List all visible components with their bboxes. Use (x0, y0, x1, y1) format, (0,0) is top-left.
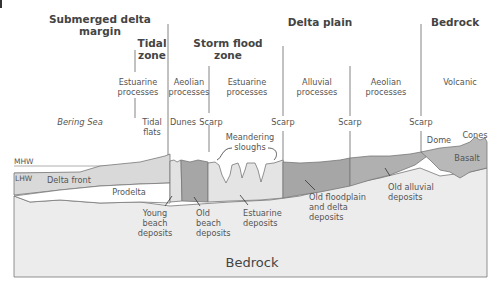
label-line: deposits (309, 212, 373, 222)
heading-tidal-zone: Tidal zone (132, 37, 172, 61)
label-line: processes (217, 87, 277, 97)
heading-storm-flood-zone: Storm flood zone (188, 37, 268, 61)
process-estuarine-2: Estuarine processes (217, 77, 277, 97)
label-line: Aeolian (355, 77, 417, 87)
label-line: deposits (134, 228, 176, 238)
label-scarp-2: Scarp (270, 117, 296, 127)
estuarine-deposits (208, 160, 283, 202)
label-scarp-1: Scarp (198, 117, 224, 127)
label-delta-front: Delta front (44, 175, 94, 185)
label-lhw: LHW (15, 174, 32, 183)
label-line: Alluvial (286, 77, 348, 87)
heading-line: zone (188, 49, 268, 61)
label-old-beach-deposits: Old beach deposits (196, 208, 236, 238)
label-line: Young (134, 208, 176, 218)
label-line: sloughs (220, 142, 280, 152)
heading-line: zone (132, 49, 172, 61)
label-line: Estuarine (243, 208, 289, 218)
heading-line: Storm flood (188, 37, 268, 49)
label-meandering-sloughs: Meandering sloughs (220, 132, 280, 152)
label-bedrock: Bedrock (222, 258, 282, 268)
label-line: Estuarine (217, 77, 277, 87)
label-prodelta: Prodelta (106, 187, 152, 197)
label-line: Tidal (138, 117, 166, 127)
label-line: processes (166, 87, 212, 97)
label-line: beach (196, 218, 236, 228)
label-line: processes (355, 87, 417, 97)
old-beach-deposits (181, 160, 208, 202)
corner-mark (0, 0, 2, 8)
process-aeolian-2: Aeolian processes (355, 77, 417, 97)
label-line: deposits (243, 218, 289, 228)
process-volcanic: Volcanic (430, 77, 490, 87)
label-old-alluvial-deposits: Old alluvial deposits (388, 182, 448, 202)
label-line: processes (108, 87, 168, 97)
heading-submerged-delta-margin: Submerged delta margin (30, 13, 170, 37)
young-beach-deposits (170, 160, 182, 202)
heading-bedrock: Bedrock (425, 16, 485, 28)
label-line: Aeolian (166, 77, 212, 87)
label-cones: Cones (458, 130, 492, 140)
label-line: flats (138, 127, 166, 137)
process-aeolian-1: Aeolian processes (166, 77, 212, 97)
process-alluvial: Alluvial processes (286, 77, 348, 97)
label-estuarine-deposits: Estuarine deposits (243, 208, 289, 228)
heading-line: Tidal (132, 37, 172, 49)
label-line: processes (286, 87, 348, 97)
label-scarp-3: Scarp (337, 117, 363, 127)
label-young-beach-deposits: Young beach deposits (134, 208, 176, 238)
label-line: beach (134, 218, 176, 228)
label-dunes: Dunes (168, 117, 198, 127)
label-line: deposits (196, 228, 236, 238)
label-bering-sea: Bering Sea (50, 117, 110, 127)
label-dome: Dome (424, 135, 454, 145)
label-line: Old alluvial (388, 182, 448, 192)
label-line: and delta (309, 202, 373, 212)
label-line: Meandering (220, 132, 280, 142)
heading-delta-plain: Delta plain (270, 16, 370, 28)
label-basalt: Basalt (450, 153, 484, 163)
label-old-floodplain-deposits: Old floodplain and delta deposits (309, 192, 373, 222)
label-tidal-flats: Tidal flats (138, 117, 166, 137)
label-mhw: MHW (14, 157, 34, 166)
label-line: Old floodplain (309, 192, 373, 202)
heading-line: margin (30, 25, 170, 37)
process-estuarine-1: Estuarine processes (108, 77, 168, 97)
label-scarp-4: Scarp (408, 117, 434, 127)
label-line: Old (196, 208, 236, 218)
heading-line: Submerged delta (30, 13, 170, 25)
label-line: deposits (388, 192, 448, 202)
label-line: Estuarine (108, 77, 168, 87)
